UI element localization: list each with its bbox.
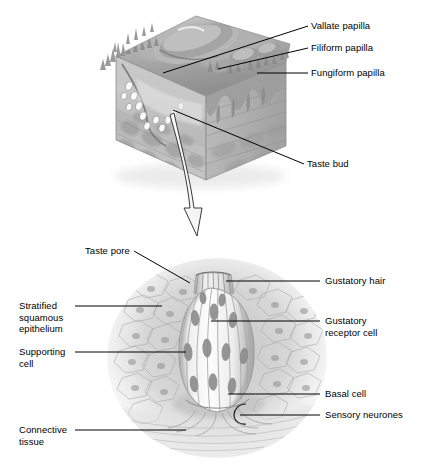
label-stratified-line2: squamous	[19, 312, 63, 323]
label-stratified-line1: Stratified	[19, 300, 57, 311]
label-vallate-papilla: Vallate papilla	[311, 20, 370, 32]
label-gustatory-receptor-cell-line2: receptor cell	[325, 327, 377, 338]
label-supporting-line2: cell	[19, 358, 33, 369]
taste-bud-detail	[75, 251, 327, 460]
label-connective-tissue: Connectivetissue	[19, 424, 67, 447]
label-connective-line2: tissue	[19, 436, 44, 447]
label-gustatory-hair: Gustatory hair	[325, 275, 385, 287]
label-sensory-neurones: Sensory neurones	[325, 409, 403, 421]
tongue-surface-block	[100, 12, 308, 188]
label-basal-cell: Basal cell	[325, 388, 366, 400]
label-gustatory-receptor-cell-line1: Gustatory	[325, 315, 367, 326]
label-filiform-papilla: Filiform papilla	[311, 42, 373, 54]
label-stratified-squamous-epithelium: Stratifiedsquamousepithelium	[19, 300, 63, 335]
label-supporting-line1: Supporting	[19, 346, 65, 357]
label-taste-bud: Taste bud	[307, 158, 349, 170]
label-gustatory-receptor-cell: Gustatoryreceptor cell	[325, 315, 377, 338]
label-stratified-line3: epithelium	[19, 323, 63, 334]
label-connective-line1: Connective	[19, 424, 67, 435]
label-supporting-cell: Supportingcell	[19, 346, 65, 369]
label-fungiform-papilla: Fungiform papilla	[311, 67, 385, 79]
label-taste-pore: Taste pore	[85, 245, 130, 257]
